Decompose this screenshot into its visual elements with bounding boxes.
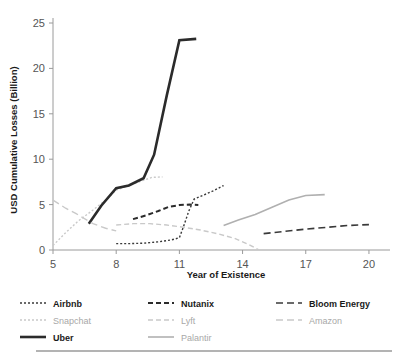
series-line-amazon bbox=[53, 200, 116, 231]
y-tick-label: 25 bbox=[33, 17, 45, 29]
y-tick-label: 10 bbox=[33, 153, 45, 165]
chart-legend: AirbnbSnapchatUberNutanixLyftPalantirBlo… bbox=[20, 299, 370, 343]
series-line-snapchat bbox=[53, 177, 163, 246]
series-line-lyft bbox=[116, 224, 258, 250]
x-axis-title: Year of Existence bbox=[187, 269, 266, 280]
y-axis-title-group: USD Cumulative Losses (Billion) bbox=[8, 66, 19, 213]
x-tick-label: 20 bbox=[363, 258, 375, 270]
x-tick-label: 17 bbox=[300, 258, 312, 270]
legend-label-airbnb[interactable]: Airbnb bbox=[53, 299, 82, 309]
series-line-nutanix bbox=[133, 205, 198, 220]
series-line-bloom-energy bbox=[264, 225, 369, 234]
x-tick-label: 5 bbox=[50, 258, 56, 270]
series-line-uber bbox=[89, 39, 196, 224]
x-tick-label: 11 bbox=[174, 258, 185, 270]
chart-container: USD Cumulative Losses (Billion) 05101520… bbox=[0, 0, 399, 364]
legend-label-amazon[interactable]: Amazon bbox=[309, 316, 342, 326]
x-tick-label: 8 bbox=[113, 258, 119, 270]
data-series-group bbox=[53, 39, 369, 250]
legend-label-uber[interactable]: Uber bbox=[53, 333, 74, 343]
y-axis-title: USD Cumulative Losses (Billion) bbox=[8, 66, 19, 213]
y-tick-label: 5 bbox=[39, 199, 45, 211]
y-tick-label: 20 bbox=[33, 62, 45, 74]
legend-label-lyft[interactable]: Lyft bbox=[181, 316, 196, 326]
y-axis-ticks: 0510152025 bbox=[33, 17, 53, 256]
legend-label-snapchat[interactable]: Snapchat bbox=[53, 316, 92, 326]
legend-label-nutanix[interactable]: Nutanix bbox=[181, 299, 214, 309]
y-tick-label: 0 bbox=[39, 244, 45, 256]
cumulative-losses-line-chart: USD Cumulative Losses (Billion) 05101520… bbox=[0, 0, 399, 364]
series-line-airbnb bbox=[116, 186, 223, 244]
series-line-palantir bbox=[224, 195, 325, 226]
y-tick-label: 15 bbox=[33, 108, 45, 120]
legend-label-palantir[interactable]: Palantir bbox=[181, 333, 212, 343]
legend-label-bloom-energy[interactable]: Bloom Energy bbox=[309, 299, 370, 309]
x-axis-ticks: 5811141720 bbox=[50, 250, 375, 270]
